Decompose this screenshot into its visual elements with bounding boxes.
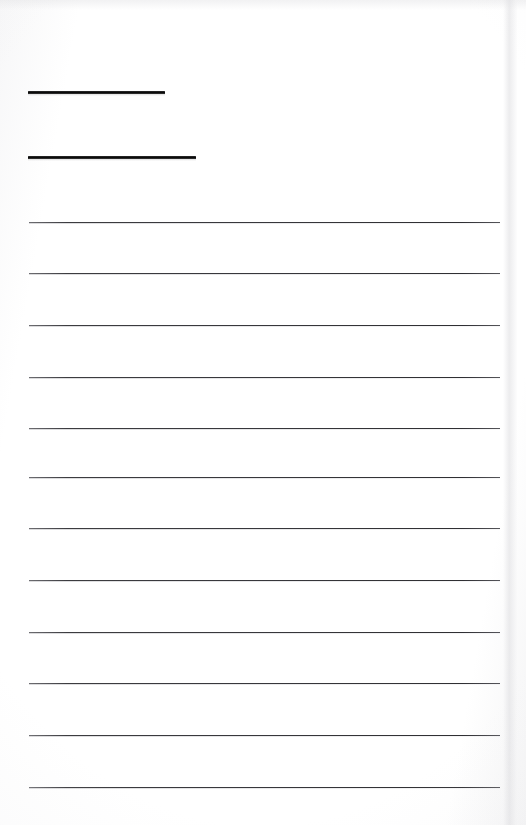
writing-rule-3	[29, 325, 500, 326]
writing-rule-4	[29, 377, 500, 378]
writing-rule-9	[29, 632, 500, 633]
writing-rule-8	[29, 580, 500, 581]
writing-rule-7	[29, 528, 500, 529]
writing-rule-6	[29, 477, 500, 478]
writing-rule-10	[29, 683, 500, 684]
writing-rule-12	[29, 787, 500, 788]
writing-rule-11	[29, 735, 500, 736]
document-page	[0, 0, 526, 825]
writing-rule-group	[0, 0, 526, 825]
writing-rule-1	[29, 222, 500, 223]
writing-rule-2	[29, 273, 500, 274]
writing-rule-5	[29, 428, 500, 429]
